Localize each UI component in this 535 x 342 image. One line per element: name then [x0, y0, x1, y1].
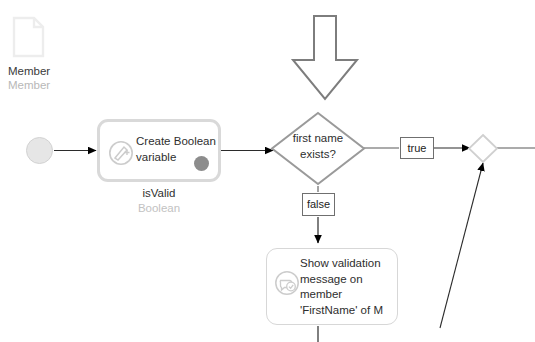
flow-label-false[interactable]: false [302, 193, 335, 216]
activity-label-create-boolean: Create Boolean variable [136, 134, 222, 165]
decision-label-line2: exists? [300, 148, 336, 160]
activity-output-dot [194, 156, 209, 171]
microflow-parameter[interactable]: Member Member [8, 16, 94, 92]
validation-message-icon [274, 270, 300, 296]
decision-label-line1: first name [293, 132, 344, 144]
entity-page-icon [12, 16, 46, 58]
variable-output-name: isValid [97, 186, 221, 201]
decision-first-name-exists[interactable]: first name exists? [272, 113, 364, 184]
merge-diamond-shape [469, 135, 497, 162]
activity-show-validation-message[interactable]: Show validation message on member 'First… [266, 248, 398, 325]
activity-label-line1: Create Boolean [136, 135, 216, 147]
microflow-canvas[interactable]: Member Member Create Boolean variable is… [0, 0, 535, 342]
start-event[interactable] [26, 137, 53, 164]
validation-label-line1: Show validation [300, 257, 381, 269]
validation-label-line4: 'FirstName' of M [300, 304, 383, 316]
decision-label: first name exists? [272, 130, 364, 162]
parameter-name: Member [8, 64, 94, 78]
activity-label-line2: variable [136, 151, 176, 163]
parameter-type: Member [8, 78, 94, 92]
pointer-arrow-icon [289, 13, 361, 103]
validation-label-line2: message on [300, 273, 363, 285]
activity-create-boolean-variable[interactable]: Create Boolean variable [97, 119, 221, 182]
connector-return-to-merge [440, 163, 483, 328]
create-variable-icon [108, 140, 134, 166]
activity-label-show-validation: Show validation message on member 'First… [300, 256, 398, 318]
validation-label-line3: member [300, 288, 342, 300]
variable-output-type: Boolean [97, 201, 221, 216]
flow-label-true[interactable]: true [400, 137, 434, 159]
